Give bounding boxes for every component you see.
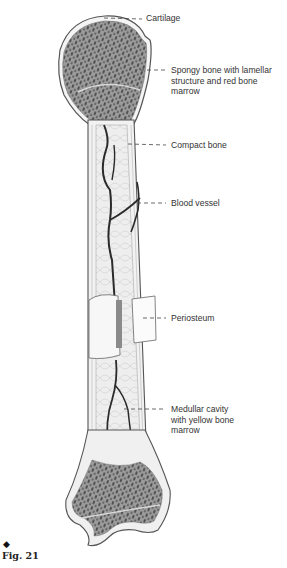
bone-shaft: [88, 120, 146, 440]
bone-distal-end: [66, 430, 170, 546]
label-periosteum: Periosteum: [171, 313, 214, 324]
label-spongy-bone: Spongy bone with lamellar structure and …: [171, 65, 272, 97]
label-cartilage: Cartilage: [146, 13, 180, 24]
label-medullar-cavity: Medullar cavity with yellow bone marrow: [171, 404, 234, 436]
bone-head: [59, 16, 151, 125]
label-compact-bone: Compact bone: [171, 140, 227, 151]
figure-caption: Fig. 21: [2, 550, 39, 561]
figure-marker-icon: ◆: [3, 539, 10, 549]
label-blood-vessel: Blood vessel: [171, 198, 220, 209]
